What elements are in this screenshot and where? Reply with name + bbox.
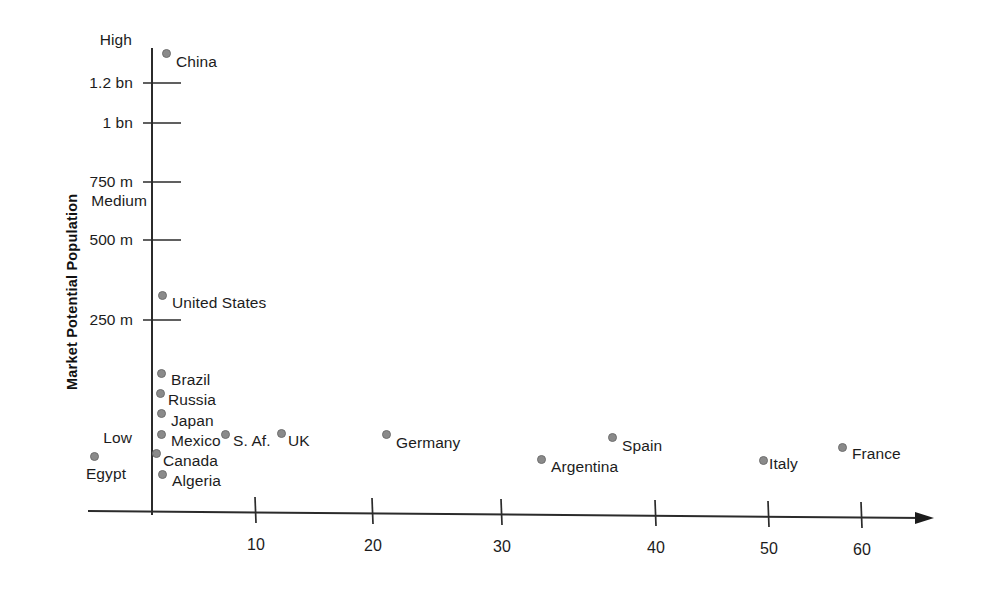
y-tick-label-750: 750 m: [48, 174, 133, 190]
data-point-label: Algeria: [172, 473, 221, 489]
data-point-marker[interactable]: [90, 452, 99, 461]
data-point-label: Egypt: [86, 466, 126, 482]
x-tick-label-10: 10: [247, 537, 265, 553]
data-point-label: Germany: [396, 435, 460, 451]
x-axis-line: [88, 511, 925, 518]
data-point-marker[interactable]: [157, 409, 166, 418]
y-tick-label-250: 250 m: [48, 312, 133, 328]
data-point-label: Italy: [769, 456, 798, 472]
data-point-label: United States: [172, 295, 266, 311]
data-point-marker[interactable]: [152, 449, 161, 458]
x-tick-40: [655, 500, 656, 526]
data-point-label: France: [852, 446, 901, 462]
chart-axes-svg: [0, 0, 1007, 593]
x-tick-50: [768, 501, 769, 527]
data-point-marker[interactable]: [158, 291, 167, 300]
data-point-marker[interactable]: [162, 49, 171, 58]
data-point-marker[interactable]: [608, 433, 617, 442]
data-point-marker[interactable]: [838, 443, 847, 452]
x-tick-label-20: 20: [364, 538, 382, 554]
x-tick-60: [861, 502, 862, 528]
band-label-low: Low: [60, 430, 132, 446]
data-point-label: Argentina: [551, 459, 618, 475]
data-point-marker[interactable]: [759, 456, 768, 465]
x-tick-10: [255, 497, 256, 523]
data-point-marker[interactable]: [156, 389, 165, 398]
x-axis-arrowhead: [915, 512, 934, 524]
data-point-marker[interactable]: [221, 430, 230, 439]
data-point-marker[interactable]: [277, 429, 286, 438]
data-point-label: Russia: [168, 392, 216, 408]
data-point-label: Canada: [163, 453, 218, 469]
data-point-label: Spain: [622, 438, 662, 454]
y-tick-label-500: 500 m: [48, 232, 133, 248]
data-point-label: China: [176, 54, 217, 70]
x-tick-label-50: 50: [760, 541, 778, 557]
x-tick-label-60: 60: [853, 542, 871, 558]
data-point-marker[interactable]: [382, 430, 391, 439]
data-point-label: Mexico: [171, 433, 221, 449]
y-tick-label-1000: 1 bn: [48, 115, 133, 131]
data-point-marker[interactable]: [537, 455, 546, 464]
x-tick-30: [501, 499, 502, 525]
data-point-label: Brazil: [171, 372, 210, 388]
market-potential-scatter-chart: Market Potential Population High Medium …: [0, 0, 1007, 593]
data-point-marker[interactable]: [157, 430, 166, 439]
data-point-label: UK: [288, 433, 310, 449]
data-point-label: Japan: [171, 413, 214, 429]
x-tick-20: [372, 498, 373, 524]
data-point-marker[interactable]: [157, 369, 166, 378]
x-tick-label-30: 30: [493, 539, 511, 555]
y-axis-title: Market Potential Population: [64, 194, 80, 390]
data-point-marker[interactable]: [158, 470, 167, 479]
band-label-medium: Medium: [60, 193, 147, 209]
y-tick-label-1200: 1.2 bn: [48, 75, 133, 91]
band-label-high: High: [60, 32, 132, 48]
x-tick-label-40: 40: [647, 540, 665, 556]
data-point-label: S. Af.: [233, 433, 271, 449]
